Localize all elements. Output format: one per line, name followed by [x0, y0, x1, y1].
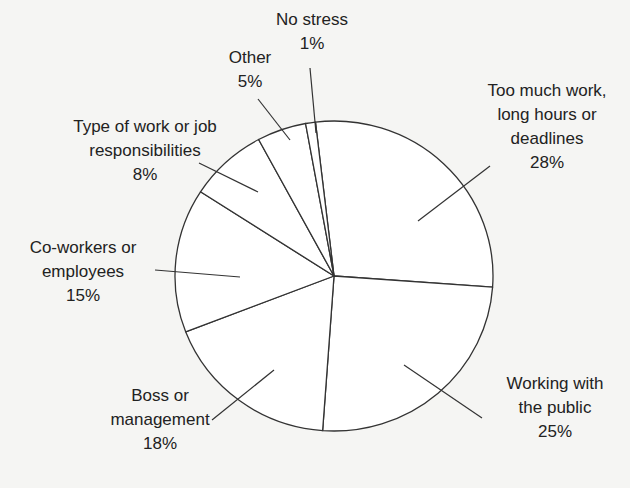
label-boss: Boss or management 18% [90, 384, 230, 456]
label-no-stress: No stress 1% [262, 8, 362, 56]
label-working-public: Working with the public 25% [480, 372, 630, 444]
label-type-of-work: Type of work or job responsibilities 8% [40, 115, 250, 187]
label-too-much-work: Too much work, long hours or deadlines 2… [462, 79, 630, 175]
label-coworkers: Co-workers or employees 15% [8, 236, 158, 308]
